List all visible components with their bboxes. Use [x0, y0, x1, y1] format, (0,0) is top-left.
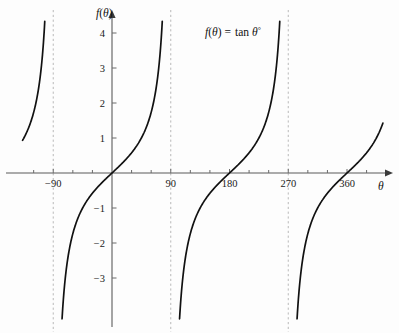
y-axis-label: f(θ) [96, 7, 113, 20]
function-annotation: f(θ)=tanθ° [205, 26, 261, 40]
x-axis-label: θ [378, 180, 384, 192]
tangent-function-chart: −90901802703604321−1−2−3 f(θ) θ f(θ)=tan… [0, 0, 399, 333]
text-overlay: f(θ) θ f(θ)=tanθ° [0, 0, 399, 333]
